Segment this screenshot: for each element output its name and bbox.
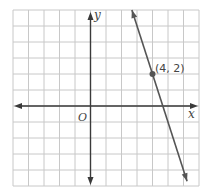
y-axis-down-arrow-icon (88, 177, 94, 185)
line-series (131, 10, 187, 181)
y-axis-label: y (93, 8, 101, 22)
y-axis-up-arrow-icon (88, 12, 94, 20)
line-arrow-start-icon (131, 10, 137, 19)
line-arrow-end-icon (182, 173, 188, 182)
origin-label: O (78, 111, 87, 124)
point-label: (4, 2) (155, 62, 185, 75)
graph-line (132, 10, 187, 181)
x-axis-left-arrow-icon (14, 103, 22, 109)
coordinate-plane: y x O (4, 2) (0, 0, 206, 196)
x-axis-label: x (188, 107, 195, 121)
grid (13, 10, 199, 186)
